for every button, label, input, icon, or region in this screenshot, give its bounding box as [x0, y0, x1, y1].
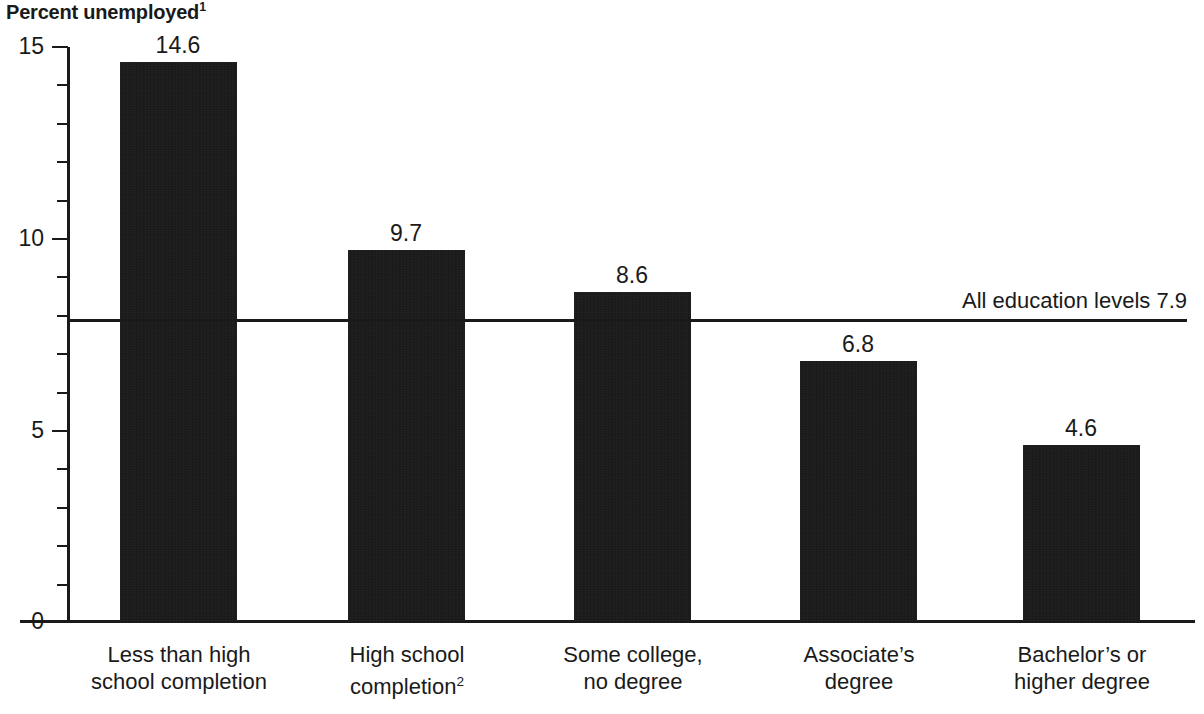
- y-tick-minor-13: [57, 123, 68, 125]
- category-label-line-2-text: completion: [350, 674, 456, 699]
- y-tick-minor-3: [57, 507, 68, 509]
- category-label-line-2: degree: [748, 668, 970, 695]
- category-label-high-school-completion: High school completion2: [296, 641, 518, 700]
- category-label-line-1: Some college,: [522, 641, 744, 668]
- category-label-line-2: higher degree: [971, 668, 1193, 695]
- y-tick-minor-14: [57, 84, 68, 86]
- y-tick-label-0: 0: [0, 610, 44, 633]
- y-tick-major-15: [52, 46, 68, 48]
- category-label-line-2: school completion: [68, 668, 290, 695]
- category-label-line-1: Associate’s: [748, 641, 970, 668]
- category-label-less-than-high-school: Less than high school completion: [68, 641, 290, 695]
- y-tick-minor-11: [57, 200, 68, 202]
- category-label-line-2: no degree: [522, 668, 744, 695]
- y-tick-minor-6: [57, 392, 68, 394]
- bar-value-some-college-no-degree: 8.6: [562, 264, 702, 287]
- y-tick-major-0: [52, 621, 68, 623]
- category-label-line-1: High school: [296, 641, 518, 668]
- y-tick-minor-1: [57, 584, 68, 586]
- bar-bachelors-or-higher-degree: [1023, 445, 1140, 621]
- y-tick-minor-8: [57, 315, 68, 317]
- reference-line-all-education-levels: [68, 319, 1187, 322]
- bar-chart: Percent unemployed1 15 10 5 0 14.6 9.7: [0, 0, 1204, 714]
- y-tick-minor-9: [57, 276, 68, 278]
- bar-value-less-than-high-school: 14.6: [108, 34, 248, 57]
- bar-value-high-school-completion: 9.7: [336, 222, 476, 245]
- y-tick-minor-2: [57, 545, 68, 547]
- category-footnote-marker: 2: [456, 674, 464, 689]
- y-tick-label-15: 15: [0, 35, 44, 58]
- bar-some-college-no-degree: [574, 292, 691, 621]
- bar-value-bachelors-or-higher-degree: 4.6: [1011, 417, 1151, 440]
- category-label-some-college-no-degree: Some college, no degree: [522, 641, 744, 695]
- category-label-line-1: Bachelor’s or: [971, 641, 1193, 668]
- y-axis-line: [67, 47, 70, 623]
- y-tick-minor-7: [57, 353, 68, 355]
- bar-less-than-high-school: [120, 62, 237, 621]
- y-tick-minor-4: [57, 468, 68, 470]
- y-tick-major-10: [52, 238, 68, 240]
- category-label-bachelors-or-higher-degree: Bachelor’s or higher degree: [971, 641, 1193, 695]
- category-label-line-1: Less than high: [68, 641, 290, 668]
- plot-area: 15 10 5 0 14.6 9.7 8.6 6.8 4.6 All: [0, 0, 1204, 714]
- y-tick-major-5: [52, 430, 68, 432]
- bar-value-associates-degree: 6.8: [788, 333, 928, 356]
- category-label-line-2: completion2: [296, 668, 518, 700]
- bar-high-school-completion: [348, 250, 465, 621]
- y-tick-label-5: 5: [0, 419, 44, 442]
- y-tick-label-10: 10: [0, 227, 44, 250]
- y-tick-minor-12: [57, 161, 68, 163]
- bar-associates-degree: [800, 361, 917, 621]
- category-label-associates-degree: Associate’s degree: [748, 641, 970, 695]
- reference-line-label: All education levels 7.9: [840, 290, 1187, 312]
